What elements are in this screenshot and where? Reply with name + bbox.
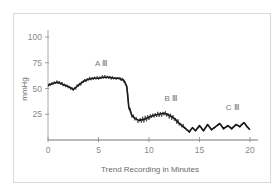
- y-tick-label: 25: [33, 109, 43, 119]
- x-tick-label: 5: [96, 145, 101, 155]
- y-tick-label: 100: [28, 32, 42, 42]
- annotation-label: C Ⅲ: [226, 103, 240, 112]
- y-tick-label: 50: [33, 84, 43, 94]
- pressure-trend-chart: 05101520255075100 A ⅢB ⅢC Ⅲ mmHg Trend R…: [0, 0, 280, 195]
- y-tick-label: 75: [33, 58, 43, 68]
- y-axis-title: mmHg: [20, 77, 29, 101]
- tick-labels: 05101520255075100: [28, 32, 255, 155]
- annotation-label: B Ⅲ: [164, 94, 178, 103]
- x-tick-label: 20: [245, 145, 255, 155]
- annotations: A ⅢB ⅢC Ⅲ: [95, 59, 240, 112]
- pressure-trace-line: [48, 77, 250, 132]
- x-tick-label: 10: [144, 145, 154, 155]
- annotation-label: A Ⅲ: [95, 59, 108, 68]
- x-tick-label: 0: [46, 145, 51, 155]
- x-axis-title: Trend Recording in Minutes: [101, 165, 199, 174]
- x-tick-label: 15: [195, 145, 205, 155]
